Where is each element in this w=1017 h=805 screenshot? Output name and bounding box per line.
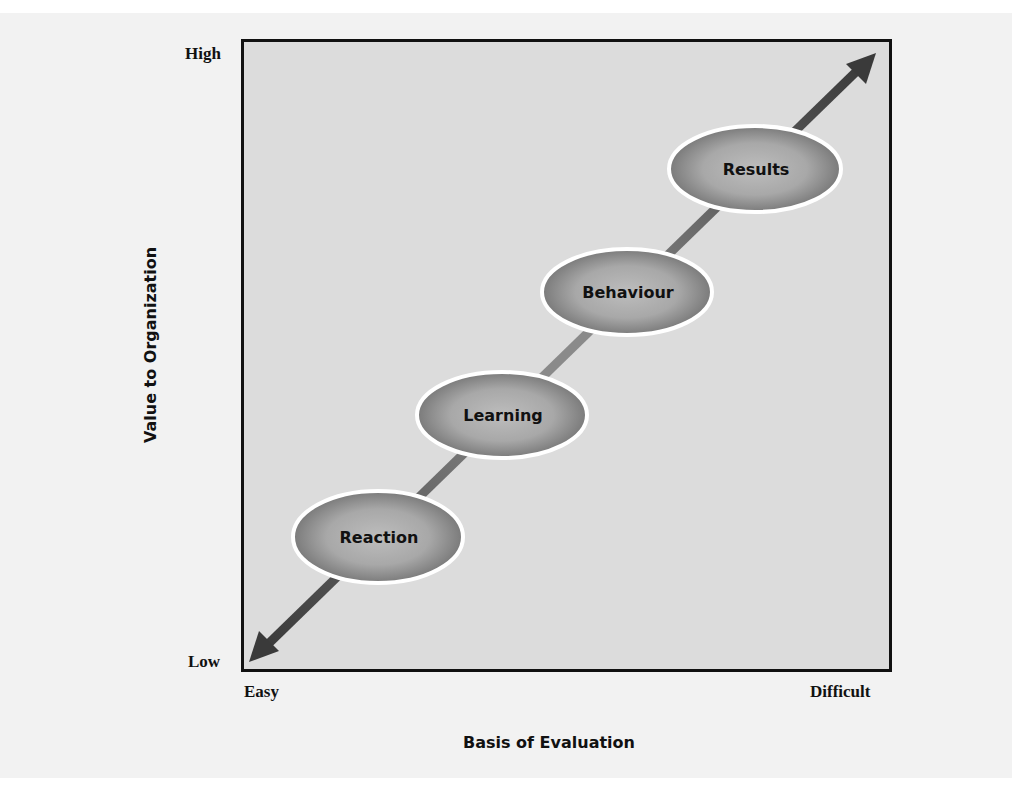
diagram-graphics [0, 0, 1017, 805]
level-label-behaviour: Behaviour [582, 283, 673, 302]
level-label-learning: Learning [463, 406, 542, 425]
level-label-results: Results [723, 160, 790, 179]
level-label-reaction: Reaction [340, 528, 419, 547]
